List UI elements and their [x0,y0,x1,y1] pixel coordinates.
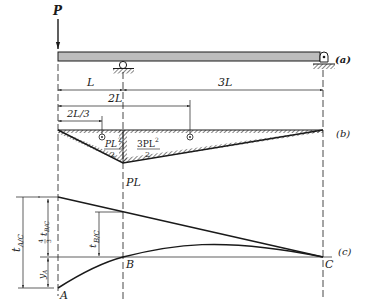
dim-2L: 2L [107,92,122,105]
four-thirds-num: 4 [37,239,44,243]
left-area-exp: 2 [118,136,122,143]
four-thirds-sub: B/C [43,221,50,233]
point-C-label: C [325,258,334,271]
t-BC-sub: B/C [93,229,101,244]
right-area-denominator: 2 [145,150,150,159]
left-area-denominator: 2 [110,150,115,159]
beam [58,52,320,61]
t-AC-sub: A/C [17,234,25,248]
centroid-marker-icon [187,134,193,140]
left-area-numerator: PL [104,139,117,149]
right-area-numerator: 3PL [137,139,155,149]
load-label: P [52,4,63,18]
dimension-lines: L 3L 2L 2L/3 [58,76,323,136]
beam-figure: P (a) [52,4,351,74]
dim-L: L [86,76,94,89]
point-A-label: A [59,289,68,302]
dim-2L-3: 2L/3 [66,108,90,119]
roller-support-icon [113,61,134,73]
part-label-a: (a) [335,54,351,65]
y-A-sub: A [41,269,48,275]
peak-moment-label: PL [125,176,141,189]
reference-lines [58,64,323,300]
dim-3L: 3L [218,76,232,89]
elastic-curve [58,244,323,288]
moment-diagram: PL 2 2 3PL 2 2 PL (b) [58,128,350,189]
beam-moment-area-diagram: P (a) L 3L 2L 2L/3 [0,0,366,304]
four-thirds-den: 3 [45,239,52,243]
right-area-exp: 2 [155,136,159,143]
part-label-b: (b) [336,128,350,139]
part-label-c: (c) [338,246,352,257]
deflection-diagram: t A/C 4 3 t B/C y A t B/C A B C (c) [10,197,352,302]
point-B-label: B [125,258,134,271]
